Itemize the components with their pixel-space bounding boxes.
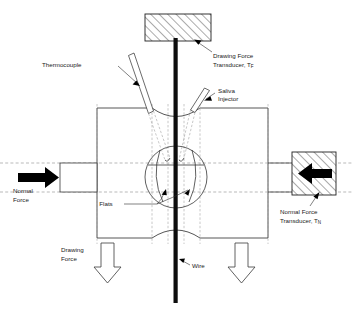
drawing-force-label-line2: Force — [61, 255, 77, 262]
drawing-force-arrow-right — [228, 243, 255, 283]
flats-label: Flats — [99, 200, 112, 207]
drawing-force-transducer-label-line2: Transducer, TF — [213, 61, 254, 70]
split-die-body — [97, 108, 268, 238]
figure-root: Thermocouple Drawing Force Transducer, T… — [0, 0, 352, 313]
saliva-injector-label-line2: Injector — [218, 95, 238, 102]
drawing-force-transducer-label-line1: Drawing Force — [213, 52, 254, 59]
normal-force-transducer-label-line2-text: Transducer, T — [280, 217, 318, 224]
normal-force-loading-ram — [60, 163, 97, 192]
wire-specimen — [174, 38, 178, 303]
drawing-force-label-line1: Drawing — [61, 246, 84, 253]
wire-leader-arrowhead — [179, 259, 185, 263]
apparatus-diagram: Thermocouple Drawing Force Transducer, T… — [0, 0, 352, 313]
normal-force-transducer-subscript: N — [318, 220, 321, 225]
normal-force-label-line1: Normal — [13, 187, 33, 194]
drawing-force-transducer-subscript: F — [251, 64, 254, 69]
normal-force-transducer-label-line2: Transducer, TN — [280, 217, 321, 226]
wire-label: Wire — [192, 262, 205, 269]
saliva-injector-label-line1: Saliva — [218, 87, 235, 94]
normal-force-transducer-label-line1: Normal Force — [280, 208, 318, 215]
drawing-force-transducer-block — [145, 14, 211, 41]
drawing-force-arrow-left — [94, 243, 121, 283]
drawing-force-transducer-label-line2-text: Transducer, T — [213, 61, 251, 68]
normal-force-label-line2: Force — [13, 196, 29, 203]
normal-force-arrow-left — [18, 167, 59, 188]
thermocouple-label: Thermocouple — [42, 61, 82, 68]
thermocouple-probe — [129, 53, 154, 114]
